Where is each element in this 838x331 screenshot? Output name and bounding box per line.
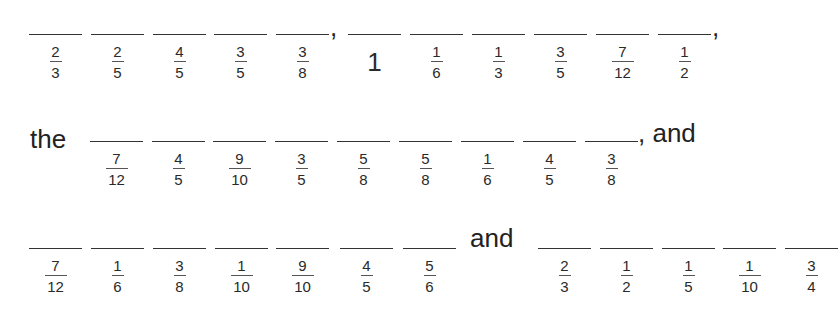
fraction-bar	[739, 275, 761, 276]
fraction-bar	[231, 275, 253, 276]
fraction-bar	[544, 168, 556, 169]
fraction-bar	[621, 275, 633, 276]
numerator: 1	[461, 151, 514, 166]
denominator: 8	[585, 172, 638, 187]
answer-blank[interactable]	[152, 141, 205, 142]
answer-blank[interactable]	[461, 141, 514, 142]
numerator: 1	[723, 258, 776, 273]
answer-blank[interactable]	[723, 248, 776, 249]
denominator: 4	[785, 279, 838, 294]
answer-blank[interactable]	[348, 34, 401, 35]
fraction-bar	[361, 275, 373, 276]
answer-blank[interactable]	[600, 248, 653, 249]
denominator: 5	[91, 65, 144, 80]
numerator: 7	[29, 258, 82, 273]
answer-blank[interactable]	[337, 141, 390, 142]
fraction-clue: 3 8	[585, 151, 638, 187]
fraction-clue: 7 12	[29, 258, 82, 294]
denominator: 5	[523, 172, 576, 187]
fraction-bar	[45, 275, 67, 276]
fraction-bar	[806, 275, 818, 276]
answer-blank[interactable]	[534, 34, 587, 35]
answer-blank[interactable]	[662, 248, 715, 249]
answer-blank[interactable]	[585, 141, 638, 142]
denominator: 5	[214, 65, 267, 80]
numerator: 5	[337, 151, 390, 166]
answer-blank[interactable]	[596, 34, 649, 35]
answer-blank[interactable]	[340, 248, 393, 249]
fraction-bar	[50, 61, 62, 62]
fraction-bar	[493, 61, 505, 62]
answer-blank[interactable]	[91, 34, 144, 35]
numerator: 2	[91, 44, 144, 59]
answer-blank[interactable]	[785, 248, 838, 249]
fraction-clue: 3 4	[785, 258, 838, 294]
answer-blank[interactable]	[403, 248, 456, 249]
numerator: 7	[90, 151, 143, 166]
numerator: 4	[153, 44, 206, 59]
answer-blank[interactable]	[399, 141, 452, 142]
answer-blank[interactable]	[410, 34, 463, 35]
denominator: 6	[461, 172, 514, 187]
fraction-bar	[431, 61, 443, 62]
fraction-clue: 1 2	[658, 44, 711, 80]
answer-blank[interactable]	[213, 141, 266, 142]
fraction-clue: 2 3	[538, 258, 591, 294]
fraction-clue: 1 6	[461, 151, 514, 187]
fraction-bar	[420, 168, 432, 169]
denominator: 2	[658, 65, 711, 80]
fraction-bar	[235, 61, 247, 62]
answer-blank[interactable]	[276, 248, 329, 249]
answer-blank[interactable]	[523, 141, 576, 142]
fraction-bar	[173, 168, 185, 169]
fraction-clue: 9 10	[213, 151, 266, 187]
fraction-clue: 7 12	[90, 151, 143, 187]
numerator: 1	[215, 258, 268, 273]
fraction-clue: 5 6	[403, 258, 456, 294]
answer-blank[interactable]	[276, 34, 329, 35]
answer-blank[interactable]	[91, 248, 144, 249]
fraction-clue: 3 5	[534, 44, 587, 80]
fraction-bar	[358, 168, 370, 169]
denominator: 6	[410, 65, 463, 80]
numerator: 1	[600, 258, 653, 273]
fraction-clue: 3 8	[276, 44, 329, 80]
answer-blank[interactable]	[215, 248, 268, 249]
numerator: 1	[472, 44, 525, 59]
fraction-bar	[112, 275, 124, 276]
denominator: 10	[276, 279, 329, 294]
answer-blank[interactable]	[214, 34, 267, 35]
denominator: 5	[534, 65, 587, 80]
numerator: 4	[152, 151, 205, 166]
fraction-bar	[297, 61, 309, 62]
numerator: 3	[153, 258, 206, 273]
fraction-bar	[296, 168, 308, 169]
fraction-clue: 3 5	[214, 44, 267, 80]
word-comma-and: , and	[638, 120, 696, 146]
fraction-clue: 1 2	[600, 258, 653, 294]
answer-blank[interactable]	[658, 34, 711, 35]
answer-blank[interactable]	[153, 34, 206, 35]
fraction-clue: 1 6	[91, 258, 144, 294]
fraction-bar	[612, 61, 634, 62]
denominator: 8	[399, 172, 452, 187]
answer-blank[interactable]	[90, 141, 143, 142]
answer-blank[interactable]	[29, 248, 82, 249]
fraction-clue: 9 10	[276, 258, 329, 294]
numerator: 5	[399, 151, 452, 166]
fraction-bar	[679, 61, 691, 62]
denominator: 8	[153, 279, 206, 294]
answer-blank[interactable]	[275, 141, 328, 142]
denominator: 5	[340, 279, 393, 294]
numerator: 1	[658, 44, 711, 59]
word-and: and	[470, 225, 513, 251]
answer-blank[interactable]	[29, 34, 82, 35]
numerator: 3	[214, 44, 267, 59]
denominator: 12	[90, 172, 143, 187]
denominator: 2	[600, 279, 653, 294]
answer-blank[interactable]	[538, 248, 591, 249]
numerator: 5	[403, 258, 456, 273]
answer-blank[interactable]	[153, 248, 206, 249]
fraction-clue: 4 5	[152, 151, 205, 187]
answer-blank[interactable]	[472, 34, 525, 35]
